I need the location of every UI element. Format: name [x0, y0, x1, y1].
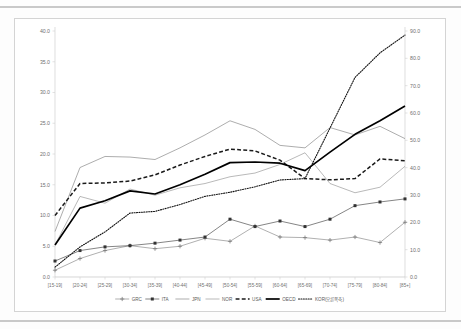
legend-item-KOR(오른쪽축)[interactable]: KOR(오른쪽축)	[299, 296, 345, 303]
series-marker-ITA	[154, 242, 157, 245]
series-marker-GRC	[353, 235, 357, 239]
svg-text:[40-44]: [40-44]	[173, 283, 187, 288]
series-marker-ITA	[329, 218, 332, 221]
svg-text:50.0: 50.0	[410, 137, 420, 143]
series-marker-GRC	[53, 268, 57, 272]
svg-text:0.0: 0.0	[410, 274, 417, 280]
series-marker-GRC	[78, 256, 82, 260]
svg-text:[30-34]: [30-34]	[123, 283, 137, 288]
series-marker-ITA	[254, 225, 257, 228]
svg-text:[70-74]: [70-74]	[323, 283, 337, 288]
series-line-OECD	[55, 106, 405, 245]
svg-text:[25-29]: [25-29]	[98, 283, 112, 288]
svg-text:20.0: 20.0	[410, 219, 420, 225]
series-marker-ITA	[404, 197, 407, 200]
svg-text:70.0: 70.0	[410, 83, 420, 89]
series-marker-ITA	[79, 249, 82, 252]
svg-text:40.0: 40.0	[40, 28, 50, 34]
svg-text:25.0: 25.0	[40, 120, 50, 126]
svg-text:[35-39]: [35-39]	[148, 283, 162, 288]
svg-text:90.0: 90.0	[410, 28, 420, 34]
x-axis-ticks: [15-19][20-24][25-29][30-34][35-39][40-4…	[48, 277, 410, 288]
legend-item-ITA[interactable]: ITA	[145, 297, 169, 302]
legend-item-OECD[interactable]: OECD	[266, 297, 296, 302]
svg-text:[55-59]: [55-59]	[248, 283, 262, 288]
series-marker-ITA	[54, 260, 57, 263]
series-marker-GRC	[278, 235, 282, 239]
svg-text:60.0: 60.0	[410, 110, 420, 116]
legend-item-NOR[interactable]: NOR	[206, 297, 233, 302]
series-marker-ITA	[104, 245, 107, 248]
y-axis-right-ticks: 0.010.020.030.040.050.060.070.080.090.0	[405, 28, 420, 280]
legend-label-JPN: JPN	[192, 297, 201, 302]
chart-container: 0.05.010.015.020.025.030.035.040.0 0.010…	[14, 18, 446, 312]
series-line-JPN	[55, 121, 405, 232]
legend-label-GRC: GRC	[132, 297, 143, 302]
svg-text:[20-24]: [20-24]	[73, 283, 87, 288]
chart-legend: GRCITAJPNNORUSAOECDKOR(오른쪽축)	[115, 296, 344, 303]
svg-text:[60-64]: [60-64]	[273, 283, 287, 288]
series-marker-GRC	[303, 236, 307, 240]
legend-label-NOR: NOR	[222, 297, 233, 302]
svg-text:[80-84]: [80-84]	[373, 283, 387, 288]
series-marker-ITA	[179, 239, 182, 242]
svg-text:0.0: 0.0	[43, 274, 50, 280]
series-marker-GRC	[153, 247, 157, 251]
page-bottom-rule	[0, 320, 461, 322]
svg-text:10.0: 10.0	[40, 212, 50, 218]
svg-text:10.0: 10.0	[410, 247, 420, 253]
legend-item-GRC[interactable]: GRC	[115, 297, 142, 302]
series-line-USA	[55, 149, 405, 215]
series-marker-GRC	[228, 239, 232, 243]
svg-text:[65-69]: [65-69]	[298, 283, 312, 288]
series-marker-ITA	[354, 204, 357, 207]
y-axis-left-ticks: 0.05.010.015.020.025.030.035.040.0	[40, 28, 55, 280]
legend-label-ITA: ITA	[162, 297, 170, 302]
legend-item-JPN[interactable]: JPN	[175, 297, 200, 302]
series-marker-ITA	[379, 200, 382, 203]
svg-text:30.0: 30.0	[40, 89, 50, 95]
chart-series-group	[53, 35, 407, 272]
svg-text:5.0: 5.0	[43, 243, 50, 249]
series-marker-ITA	[304, 225, 307, 228]
legend-label-OECD: OECD	[282, 297, 296, 302]
svg-text:15.0: 15.0	[40, 182, 50, 188]
series-marker-GRC	[103, 248, 107, 252]
series-marker-ITA	[204, 236, 207, 239]
svg-text:80.0: 80.0	[410, 55, 420, 61]
svg-text:35.0: 35.0	[40, 59, 50, 65]
svg-text:[85+]: [85+]	[400, 283, 410, 288]
legend-label-USA: USA	[252, 297, 262, 302]
series-line-KOR(오른쪽축)	[55, 35, 405, 267]
screenshot-page: 0.05.010.015.020.025.030.035.040.0 0.010…	[0, 0, 461, 329]
series-marker-GRC	[178, 244, 182, 248]
series-marker-GRC	[328, 238, 332, 242]
series-line-GRC	[55, 222, 405, 270]
legend-label-KOR(오른쪽축): KOR(오른쪽축)	[315, 296, 344, 303]
series-marker-ITA	[129, 244, 132, 247]
series-marker-ITA	[229, 218, 232, 221]
svg-text:[50-54]: [50-54]	[223, 283, 237, 288]
svg-text:30.0: 30.0	[410, 192, 420, 198]
svg-text:[15-19]: [15-19]	[48, 283, 62, 288]
svg-text:20.0: 20.0	[40, 151, 50, 157]
legend-item-USA[interactable]: USA	[236, 297, 263, 302]
page-top-rule	[0, 6, 461, 8]
svg-text:[75-79]: [75-79]	[348, 283, 362, 288]
svg-text:40.0: 40.0	[410, 165, 420, 171]
line-chart: 0.05.010.015.020.025.030.035.040.0 0.010…	[15, 19, 445, 311]
svg-text:[45-49]: [45-49]	[198, 283, 212, 288]
series-marker-ITA	[279, 220, 282, 223]
